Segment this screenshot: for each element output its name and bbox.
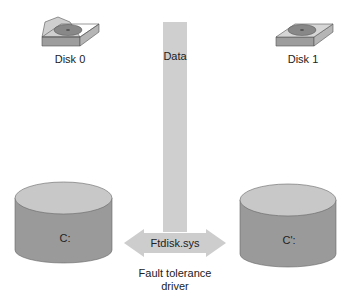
disk-0-label: Disk 0 — [40, 53, 100, 65]
ftdisk-label: Ftdisk.sys — [135, 237, 215, 249]
disk-1-label: Disk 1 — [273, 53, 333, 65]
driver-caption-line2: driver — [120, 280, 230, 293]
disk-icon — [276, 24, 333, 46]
volume-c-prime-label: C': — [264, 234, 314, 246]
volume-c-label: C: — [40, 232, 90, 244]
data-label: Data — [155, 50, 195, 62]
volume-cylinder — [15, 182, 112, 263]
diagram-canvas — [0, 0, 352, 298]
volume-cylinder — [240, 184, 336, 267]
driver-caption-line1: Fault tolerance — [120, 267, 230, 280]
driver-caption: Fault tolerance driver — [120, 267, 230, 293]
disk-icon — [42, 17, 99, 46]
